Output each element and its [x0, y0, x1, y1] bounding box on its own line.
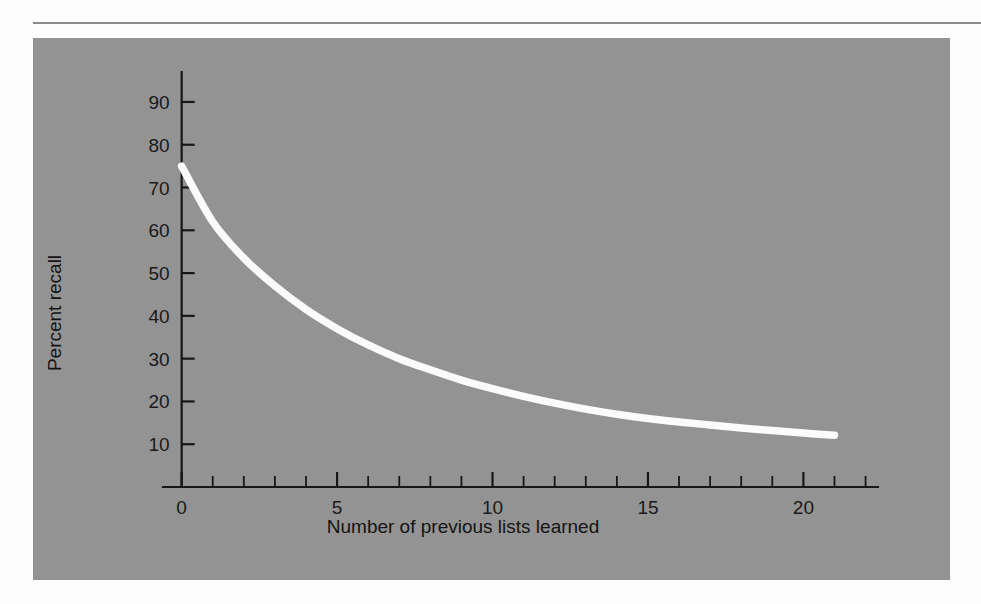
- chart-plot-panel: 10203040506070809005101520 Number of pre…: [33, 38, 950, 580]
- data-curve-0: [182, 166, 835, 435]
- y-tick-label-70: 70: [149, 178, 170, 199]
- chart-tick-labels: 10203040506070809005101520: [149, 92, 814, 518]
- x-axis-title: Number of previous lists learned: [327, 516, 599, 537]
- x-tick-label-10: 10: [482, 497, 503, 518]
- y-tick-label-30: 30: [149, 349, 170, 370]
- figure-root: 10203040506070809005101520 Number of pre…: [0, 0, 981, 604]
- top-horizontal-rule: [33, 22, 981, 24]
- x-tick-label-20: 20: [793, 497, 814, 518]
- y-tick-label-60: 60: [149, 220, 170, 241]
- y-tick-label-80: 80: [149, 135, 170, 156]
- y-tick-label-20: 20: [149, 391, 170, 412]
- y-tick-label-50: 50: [149, 263, 170, 284]
- chart-series: [182, 166, 835, 435]
- percent-recall-line-chart: 10203040506070809005101520 Number of pre…: [33, 38, 950, 580]
- x-tick-label-15: 15: [637, 497, 658, 518]
- x-tick-label-5: 5: [332, 497, 343, 518]
- y-tick-label-90: 90: [149, 92, 170, 113]
- y-tick-label-40: 40: [149, 306, 170, 327]
- y-axis-title: Percent recall: [44, 255, 65, 371]
- x-tick-label-0: 0: [176, 497, 187, 518]
- y-tick-label-10: 10: [149, 434, 170, 455]
